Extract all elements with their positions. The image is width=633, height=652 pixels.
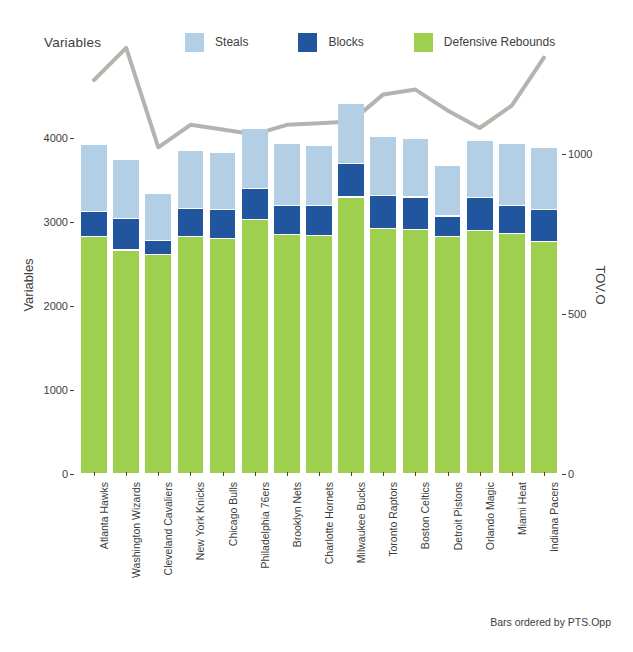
- bar-segment-steals[interactable]: [370, 137, 396, 195]
- bar-segment-steals[interactable]: [113, 160, 139, 218]
- bar-column[interactable]: [178, 96, 204, 474]
- x-axis-tick: [383, 472, 384, 476]
- bar-column[interactable]: [81, 96, 107, 474]
- x-axis-tick: [351, 472, 352, 476]
- bar-segment-defensive-rebounds[interactable]: [403, 230, 429, 472]
- x-axis-label: Milwaukee Bucks: [355, 482, 367, 563]
- bar-segment-steals[interactable]: [435, 166, 461, 215]
- legend-label-defensive-rebounds: Defensive Rebounds: [444, 35, 555, 49]
- x-axis-label: Chicago Bulls: [227, 482, 239, 546]
- bar-segment-defensive-rebounds[interactable]: [370, 229, 396, 473]
- x-axis-label: Orlando Magic: [484, 482, 496, 550]
- bar-segment-steals[interactable]: [499, 144, 525, 205]
- bar-segment-blocks[interactable]: [210, 210, 236, 238]
- x-axis-label: Washington Wizards: [130, 482, 142, 578]
- x-axis-tick: [287, 472, 288, 476]
- bar-segment-blocks[interactable]: [435, 217, 461, 236]
- bar-segment-steals[interactable]: [306, 146, 332, 205]
- chart-legend: Variables Steals Blocks Defensive Reboun…: [44, 30, 605, 54]
- x-axis-label: Brooklyn Nets: [291, 482, 303, 547]
- bar-segment-blocks[interactable]: [178, 209, 204, 236]
- bar-segment-steals[interactable]: [531, 148, 557, 209]
- bar-column[interactable]: [113, 96, 139, 474]
- bar-segment-defensive-rebounds[interactable]: [210, 239, 236, 473]
- y-axis-right-tick: 0: [568, 468, 574, 480]
- x-axis-labels: Atlanta HawksWashington WizardsCleveland…: [78, 476, 560, 606]
- bar-segment-defensive-rebounds[interactable]: [81, 237, 107, 473]
- bar-column[interactable]: [210, 96, 236, 474]
- bar-segment-blocks[interactable]: [370, 196, 396, 228]
- bar-segment-steals[interactable]: [81, 145, 107, 211]
- y-axis-left-tick: 4000: [44, 132, 68, 144]
- x-axis-tick: [512, 472, 513, 476]
- chart-caption: Bars ordered by PTS.Opp: [490, 616, 611, 628]
- bar-segment-blocks[interactable]: [403, 198, 429, 230]
- bar-segment-blocks[interactable]: [81, 212, 107, 236]
- x-axis-tick: [223, 472, 224, 476]
- bar-segment-steals[interactable]: [210, 153, 236, 209]
- x-axis-tick: [158, 472, 159, 476]
- bar-column[interactable]: [435, 96, 461, 474]
- bar-segment-blocks[interactable]: [306, 206, 332, 234]
- bar-segment-steals[interactable]: [338, 104, 364, 163]
- bar-segment-defensive-rebounds[interactable]: [178, 237, 204, 473]
- bar-segment-defensive-rebounds[interactable]: [113, 251, 139, 473]
- bar-segment-defensive-rebounds[interactable]: [435, 237, 461, 473]
- x-axis-tick: [544, 472, 545, 476]
- bar-segment-blocks[interactable]: [274, 206, 300, 234]
- x-axis-tick: [126, 472, 127, 476]
- x-axis-label: Toronto Raptors: [387, 482, 399, 557]
- bar-column[interactable]: [338, 96, 364, 474]
- x-axis-tick: [415, 472, 416, 476]
- legend-swatch-steals: [185, 33, 204, 52]
- bar-segment-defensive-rebounds[interactable]: [145, 255, 171, 473]
- bar-segment-defensive-rebounds[interactable]: [531, 242, 557, 473]
- bar-segment-defensive-rebounds[interactable]: [338, 198, 364, 473]
- legend-item-steals[interactable]: Steals: [185, 33, 248, 52]
- bar-segment-blocks[interactable]: [338, 164, 364, 196]
- bar-column[interactable]: [531, 96, 557, 474]
- x-axis-label: Atlanta Hawks: [98, 482, 110, 549]
- x-axis-label: Detroit Pistons: [452, 482, 464, 550]
- legend-swatch-blocks: [298, 33, 317, 52]
- bar-segment-blocks[interactable]: [145, 241, 171, 254]
- bar-segment-defensive-rebounds[interactable]: [274, 235, 300, 472]
- x-axis-label: Boston Celtics: [419, 482, 431, 549]
- y-axis-left-tick: 0: [62, 468, 68, 480]
- bar-segment-defensive-rebounds[interactable]: [467, 231, 493, 473]
- bar-column[interactable]: [145, 96, 171, 474]
- bar-column[interactable]: [274, 96, 300, 474]
- bar-column[interactable]: [499, 96, 525, 474]
- bar-segment-defensive-rebounds[interactable]: [306, 236, 332, 473]
- bar-column[interactable]: [403, 96, 429, 474]
- bar-segment-steals[interactable]: [178, 151, 204, 209]
- bar-segment-blocks[interactable]: [242, 189, 268, 219]
- bar-segment-blocks[interactable]: [113, 219, 139, 249]
- x-axis-label: New York Knicks: [194, 482, 206, 560]
- bar-column[interactable]: [370, 96, 396, 474]
- bar-column[interactable]: [306, 96, 332, 474]
- bar-segment-steals[interactable]: [274, 144, 300, 205]
- bar-segment-blocks[interactable]: [531, 210, 557, 241]
- bar-segment-steals[interactable]: [403, 139, 429, 196]
- y-axis-left-title: Variables: [21, 258, 36, 311]
- x-axis-tick: [255, 472, 256, 476]
- y-axis-left-tick: 2000: [44, 300, 68, 312]
- bar-segment-blocks[interactable]: [467, 198, 493, 230]
- bar-segment-defensive-rebounds[interactable]: [499, 234, 525, 473]
- y-axis-right-tick: 500: [568, 308, 586, 320]
- bar-column[interactable]: [467, 96, 493, 474]
- x-axis-label: Cleveland Cavaliers: [162, 482, 174, 575]
- bar-segment-steals[interactable]: [242, 129, 268, 188]
- x-axis-tick: [480, 472, 481, 476]
- bar-segment-steals[interactable]: [467, 141, 493, 197]
- x-axis-label: Miami Heat: [516, 482, 528, 535]
- plot-area: [78, 96, 560, 474]
- x-axis-tick: [190, 472, 191, 476]
- legend-item-blocks[interactable]: Blocks: [298, 33, 363, 52]
- bar-column[interactable]: [242, 96, 268, 474]
- legend-item-defensive-rebounds[interactable]: Defensive Rebounds: [414, 33, 555, 52]
- bar-segment-blocks[interactable]: [499, 206, 525, 233]
- bar-segment-steals[interactable]: [145, 194, 171, 239]
- bar-segment-defensive-rebounds[interactable]: [242, 220, 268, 472]
